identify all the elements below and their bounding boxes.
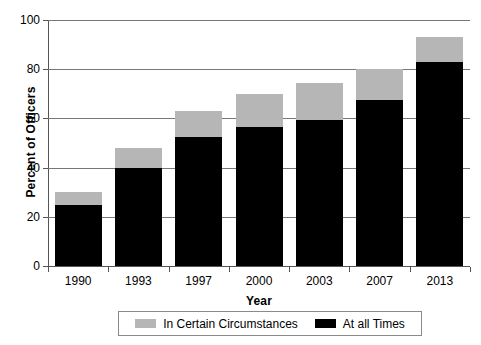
legend-swatch-gray-icon: [135, 319, 156, 328]
gridline: [48, 69, 470, 70]
y-tick-mark: [43, 168, 48, 169]
bar-segment-in-certain-circumstances: [55, 192, 102, 204]
legend-swatch-black-icon: [315, 319, 336, 328]
bar-segment-at-all-times: [175, 137, 222, 266]
x-tick-label: 1990: [65, 274, 92, 288]
bar-segment-at-all-times: [115, 168, 162, 266]
y-tick-label: 20: [27, 211, 40, 223]
bar-segment-at-all-times: [356, 100, 403, 266]
bar-segment-in-certain-circumstances: [115, 148, 162, 168]
y-tick-mark: [43, 217, 48, 218]
legend-item: At all Times: [315, 318, 405, 330]
x-axis-title: Year: [48, 294, 470, 308]
y-tick-label: 80: [27, 63, 40, 75]
bar-segment-at-all-times: [236, 127, 283, 266]
bar-1997: [175, 111, 222, 266]
y-tick-mark: [43, 118, 48, 119]
x-tick-mark: [48, 267, 49, 272]
x-tick-mark: [470, 267, 471, 272]
bar-segment-at-all-times: [296, 120, 343, 266]
x-tick-mark: [349, 267, 350, 272]
x-tick-mark: [289, 267, 290, 272]
x-tick-mark: [108, 267, 109, 272]
x-tick-label: 2007: [366, 274, 393, 288]
y-axis-line: [48, 20, 49, 267]
bar-segment-in-certain-circumstances: [356, 69, 403, 100]
y-tick-label: 40: [27, 162, 40, 174]
bar-segment-in-certain-circumstances: [296, 83, 343, 120]
bar-segment-in-certain-circumstances: [175, 111, 222, 137]
x-axis-line: [48, 266, 470, 267]
bar-2007: [356, 69, 403, 266]
bar-1990: [55, 192, 102, 266]
x-tick-mark: [229, 267, 230, 272]
legend-item: In Certain Circumstances: [135, 318, 298, 330]
x-tick-label: 2000: [246, 274, 273, 288]
x-tick-mark: [410, 267, 411, 272]
y-tick-label: 0: [33, 260, 40, 272]
y-tick-mark: [43, 20, 48, 21]
bar-chart: Percent of Officers 020406080100 1990199…: [0, 0, 481, 345]
bar-segment-in-certain-circumstances: [236, 94, 283, 127]
bar-1993: [115, 148, 162, 266]
bar-segment-in-certain-circumstances: [416, 37, 463, 62]
legend-label: In Certain Circumstances: [163, 318, 298, 330]
x-tick-mark: [169, 267, 170, 272]
x-tick-label: 1997: [185, 274, 212, 288]
bar-2003: [296, 83, 343, 266]
y-tick-label: 60: [27, 112, 40, 124]
chart-legend: In Certain Circumstances At all Times: [118, 311, 422, 336]
y-tick-label: 100: [20, 14, 40, 26]
gridline: [48, 20, 470, 21]
bar-2013: [416, 37, 463, 266]
bar-2000: [236, 94, 283, 266]
bar-segment-at-all-times: [55, 205, 102, 267]
plot-area: 020406080100 199019931997200020032007201…: [48, 20, 470, 267]
x-tick-label: 2003: [306, 274, 333, 288]
legend-label: At all Times: [343, 318, 405, 330]
bar-segment-at-all-times: [416, 62, 463, 266]
x-tick-label: 2013: [426, 274, 453, 288]
y-tick-mark: [43, 69, 48, 70]
x-tick-label: 1993: [125, 274, 152, 288]
